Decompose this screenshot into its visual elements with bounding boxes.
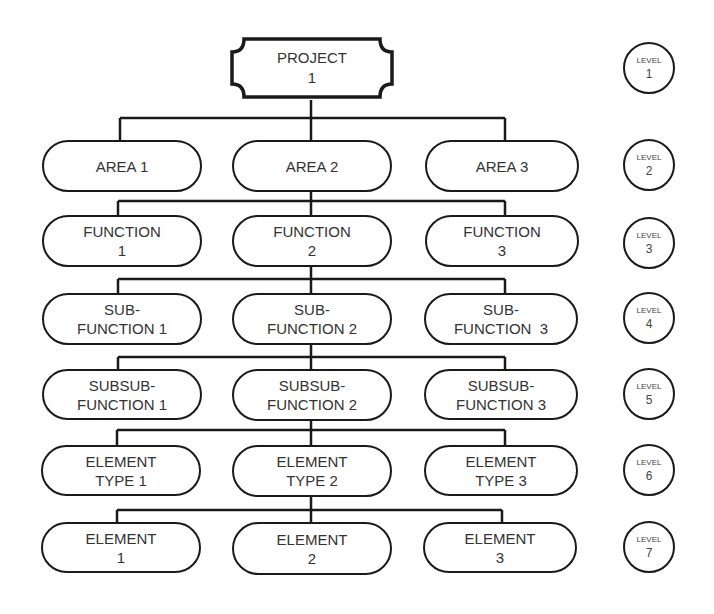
level-badge-5: LEVEL 5	[623, 368, 675, 420]
node-label: AREA 2	[286, 157, 339, 176]
level-badge-7: LEVEL 7	[623, 521, 675, 573]
node-label: SUB-	[104, 300, 140, 319]
node-sublabel: FUNCTION 3	[456, 395, 546, 414]
level-number: 7	[646, 546, 653, 560]
node-label: AREA 1	[96, 157, 149, 176]
node-function-2[interactable]: FUNCTION 2	[232, 215, 392, 267]
project-node[interactable]: PROJECT 1	[244, 36, 380, 100]
node-element-type-2[interactable]: ELEMENT TYPE 2	[232, 445, 392, 497]
node-label: SUB-	[483, 300, 519, 319]
node-label: FUNCTION	[83, 222, 161, 241]
level-number: 6	[646, 469, 653, 483]
node-subsubfunction-2[interactable]: SUBSUB- FUNCTION 2	[232, 369, 392, 421]
node-sublabel: FUNCTION 3	[454, 319, 548, 338]
node-area-1[interactable]: AREA 1	[42, 140, 202, 192]
node-element-type-1[interactable]: ELEMENT TYPE 1	[41, 445, 201, 496]
level-badge-1: LEVEL 1	[623, 42, 675, 94]
node-sublabel: FUNCTION 2	[267, 395, 357, 414]
node-subfunction-1[interactable]: SUB- FUNCTION 1	[42, 293, 202, 345]
level-number: 1	[646, 67, 653, 81]
level-label: LEVEL	[637, 152, 662, 164]
level-number: 3	[646, 242, 653, 256]
level-number: 2	[646, 164, 653, 178]
node-function-3[interactable]: FUNCTION 3	[425, 215, 579, 267]
node-label: SUBSUB-	[89, 376, 156, 395]
node-label: ELEMENT	[466, 452, 537, 471]
level-badge-2: LEVEL 2	[623, 139, 675, 191]
node-label: ELEMENT	[277, 452, 348, 471]
level-badge-3: LEVEL 3	[623, 217, 675, 269]
level-label: LEVEL	[637, 457, 662, 469]
node-subsubfunction-1[interactable]: SUBSUB- FUNCTION 1	[42, 369, 202, 420]
node-sublabel: 3	[496, 548, 504, 567]
node-element-1[interactable]: ELEMENT 1	[41, 522, 201, 573]
node-label: SUB-	[294, 300, 330, 319]
node-element-3[interactable]: ELEMENT 3	[423, 522, 577, 573]
node-sublabel: FUNCTION 1	[77, 319, 167, 338]
node-label: ELEMENT	[86, 452, 157, 471]
node-sublabel: TYPE 3	[475, 471, 527, 490]
node-subfunction-2[interactable]: SUB- FUNCTION 2	[232, 293, 392, 345]
node-label: SUBSUB-	[279, 376, 346, 395]
node-label: SUBSUB-	[468, 376, 535, 395]
level-number: 5	[646, 393, 653, 407]
node-sublabel: 1	[118, 241, 126, 260]
level-number: 4	[646, 317, 653, 331]
node-sublabel: FUNCTION 2	[267, 319, 357, 338]
level-label: LEVEL	[637, 230, 662, 242]
node-sublabel: FUNCTION 1	[77, 395, 167, 414]
node-sublabel: 2	[308, 241, 316, 260]
node-sublabel: TYPE 1	[95, 471, 147, 490]
node-sublabel: 3	[498, 241, 506, 260]
node-label: ELEMENT	[465, 529, 536, 548]
node-sublabel: 2	[308, 549, 316, 568]
node-area-3[interactable]: AREA 3	[425, 140, 579, 192]
node-subfunction-3[interactable]: SUB- FUNCTION 3	[424, 293, 578, 345]
level-label: LEVEL	[637, 534, 662, 546]
node-label: FUNCTION	[463, 222, 541, 241]
node-subsubfunction-3[interactable]: SUBSUB- FUNCTION 3	[424, 369, 578, 420]
project-number: 1	[308, 68, 316, 88]
node-sublabel: TYPE 2	[286, 471, 338, 490]
level-badge-6: LEVEL 6	[623, 444, 675, 496]
level-label: LEVEL	[637, 381, 662, 393]
level-badge-4: LEVEL 4	[623, 292, 675, 344]
project-title: PROJECT	[277, 48, 347, 68]
node-sublabel: 1	[117, 548, 125, 567]
node-function-1[interactable]: FUNCTION 1	[42, 215, 202, 267]
node-element-type-3[interactable]: ELEMENT TYPE 3	[424, 445, 578, 496]
node-element-2[interactable]: ELEMENT 2	[232, 522, 392, 575]
node-label: FUNCTION	[273, 222, 351, 241]
node-label: AREA 3	[476, 157, 529, 176]
level-label: LEVEL	[637, 305, 662, 317]
node-label: ELEMENT	[86, 529, 157, 548]
level-label: LEVEL	[637, 55, 662, 67]
node-label: ELEMENT	[277, 530, 348, 549]
node-area-2[interactable]: AREA 2	[232, 140, 392, 192]
